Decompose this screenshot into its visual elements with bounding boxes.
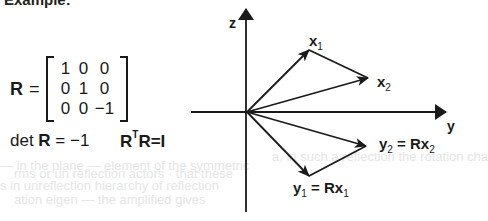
connector-y1-y2: [309, 146, 366, 176]
vector-y2: [247, 112, 366, 146]
y2-eq-sub: 2: [429, 144, 435, 155]
x1-label: x1: [309, 32, 323, 52]
y-axis-label: y: [447, 118, 455, 134]
y1-eq: = Rx: [307, 179, 343, 196]
x2-label: x2: [377, 73, 391, 93]
connector-x1-x2: [309, 50, 368, 78]
y1-eq-sub: 1: [343, 188, 349, 199]
y2-eq: = Rx: [393, 135, 429, 152]
x1-sub: 1: [317, 41, 323, 52]
x2-sub: 2: [385, 82, 391, 93]
y1-label: y1 = Rx1: [293, 179, 349, 199]
y2-label: y2 = Rx2: [379, 135, 435, 155]
z-axis-label: z: [229, 15, 236, 31]
